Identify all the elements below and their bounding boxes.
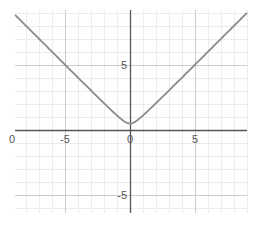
x-tick-label: 0: [9, 133, 15, 145]
function-plot: 0-5055-5: [0, 0, 260, 225]
x-tick-label: 5: [192, 133, 198, 145]
minor-grid: [15, 10, 248, 213]
y-tick-label: -5: [117, 189, 127, 201]
x-tick-label: 0: [127, 133, 133, 145]
x-tick-label: -5: [60, 133, 70, 145]
y-tick-label: 5: [121, 59, 127, 71]
